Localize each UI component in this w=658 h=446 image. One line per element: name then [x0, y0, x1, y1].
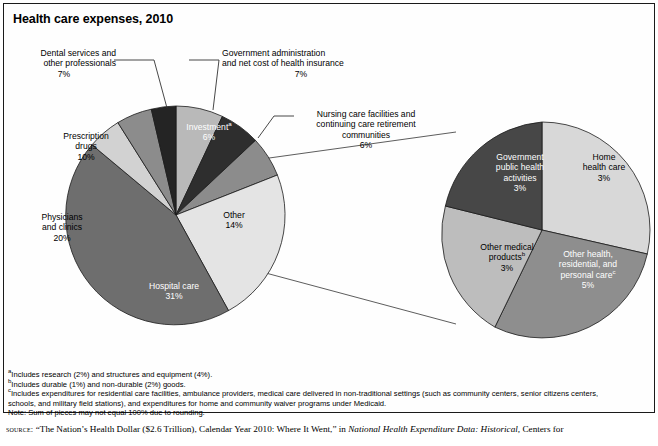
callout-government-line1: Government administration	[222, 48, 380, 58]
callout-nursing-line3: communities	[298, 130, 434, 140]
footnote-a-text: Includes research (2%) and structures an…	[11, 370, 212, 379]
label-physicians-line2: and clinics	[16, 222, 108, 232]
label-hospital-care: Hospital care 31%	[122, 281, 226, 302]
callout-dental-line2: other professionals	[12, 58, 116, 68]
label-other-medical-line1: Other medical	[459, 242, 555, 252]
label-other-health-footnote-marker: c	[612, 268, 615, 275]
label-gov-public-health-value: 3%	[474, 183, 566, 193]
label-prescription-drugs: Prescription drugs 10%	[40, 131, 132, 162]
footnote-b-text: Includes durable (1%) and non-durable (2…	[11, 380, 185, 389]
explosion-connector-lines	[262, 132, 456, 324]
callout-government-administration: Government administration and net cost o…	[222, 48, 380, 79]
source-label: source:	[6, 425, 33, 434]
label-other-medical-footnote-marker: b	[522, 251, 525, 258]
callout-nursing-line2: continuing care retirement	[298, 119, 434, 129]
footnote-c-text-line1: Includes expenditures for residential ca…	[11, 389, 598, 398]
label-other-line1: Other	[200, 210, 268, 220]
callout-nursing-line1: Nursing care facilities and	[298, 109, 434, 119]
label-gov-public-health-line3: activities	[474, 173, 566, 183]
label-other-medical-line2: productsb	[459, 252, 555, 262]
callout-nursing-value: 6%	[298, 140, 434, 150]
label-home-health-care-value: 3%	[564, 173, 644, 183]
label-physicians-and-clinics: Physicians and clinics 20%	[16, 212, 108, 243]
source-tail: Centers for	[522, 424, 563, 434]
label-other-medical-value: 3%	[459, 263, 555, 273]
footnote-c-text-line2: schools, and military field stations), a…	[8, 399, 386, 408]
callout-nursing-care: Nursing care facilities and continuing c…	[298, 109, 434, 151]
footnote-note-text: Note: Sum of pieces may not equal 100% d…	[8, 408, 205, 417]
label-physicians-value: 20%	[16, 233, 108, 243]
label-physicians-line1: Physicians	[16, 212, 108, 222]
source-quoted-title: “The Nation’s Health Dollar ($2.6 Trilli…	[36, 424, 337, 434]
leader-government-diagonal	[213, 60, 219, 110]
source-in-word: in	[339, 424, 346, 434]
label-home-health-care-line2: health care	[564, 162, 644, 172]
footnote-c-cont: schools, and military field stations), a…	[8, 399, 658, 409]
callout-dental-line1: Dental services and	[12, 48, 116, 58]
label-other: Other 14%	[200, 210, 268, 231]
label-other-health-value: 5%	[539, 280, 637, 290]
label-prescription-drugs-line1: Prescription	[40, 131, 132, 141]
label-other-value: 14%	[200, 220, 268, 230]
callout-government-value: 7%	[222, 69, 380, 79]
label-gov-public-health-line1: Government	[474, 152, 566, 162]
label-investment-text: Investment	[186, 122, 228, 132]
footnote-note: Note: Sum of pieces may not equal 100% d…	[8, 408, 658, 418]
label-home-health-care-line1: Home	[564, 152, 644, 162]
label-government-public-health: Government public health activities 3%	[474, 152, 566, 194]
label-investment: Investmenta 6%	[170, 122, 248, 143]
footnotes-block: aIncludes research (2%) and structures a…	[8, 370, 658, 418]
source-line: source: “The Nation’s Health Dollar ($2.…	[6, 424, 658, 435]
source-italic-title: National Health Expenditure Data: Histor…	[348, 424, 520, 434]
label-other-health-text3: personal care	[560, 270, 612, 280]
label-other-medical-text2: products	[489, 252, 522, 262]
figure-panel: Health care expenses, 2010	[3, 3, 655, 413]
callout-dental-value: 7%	[12, 69, 116, 79]
label-investment-value: 6%	[170, 132, 248, 142]
label-hospital-care-line1: Hospital care	[122, 281, 226, 291]
callout-dental-services: Dental services and other professionals …	[12, 48, 116, 79]
explosion-line-bottom	[262, 272, 456, 324]
footnote-c: cIncludes expenditures for residential c…	[8, 389, 658, 399]
label-investment-line1: Investmenta	[170, 122, 248, 132]
label-other-medical-products: Other medical productsb 3%	[459, 242, 555, 273]
label-prescription-drugs-line2: drugs	[40, 141, 132, 151]
label-home-health-care: Home health care 3%	[564, 152, 644, 183]
callout-government-line2: and net cost of health insurance	[222, 58, 380, 68]
label-gov-public-health-line2: public health	[474, 162, 566, 172]
label-prescription-drugs-value: 10%	[40, 152, 132, 162]
footnote-b: bIncludes durable (1%) and non-durable (…	[8, 380, 658, 390]
label-investment-footnote-marker: a	[228, 120, 231, 127]
leader-nursing-diagonal	[258, 116, 274, 138]
leader-dental-diagonal	[154, 60, 167, 108]
footnote-a: aIncludes research (2%) and structures a…	[8, 370, 658, 380]
label-hospital-care-value: 31%	[122, 291, 226, 301]
